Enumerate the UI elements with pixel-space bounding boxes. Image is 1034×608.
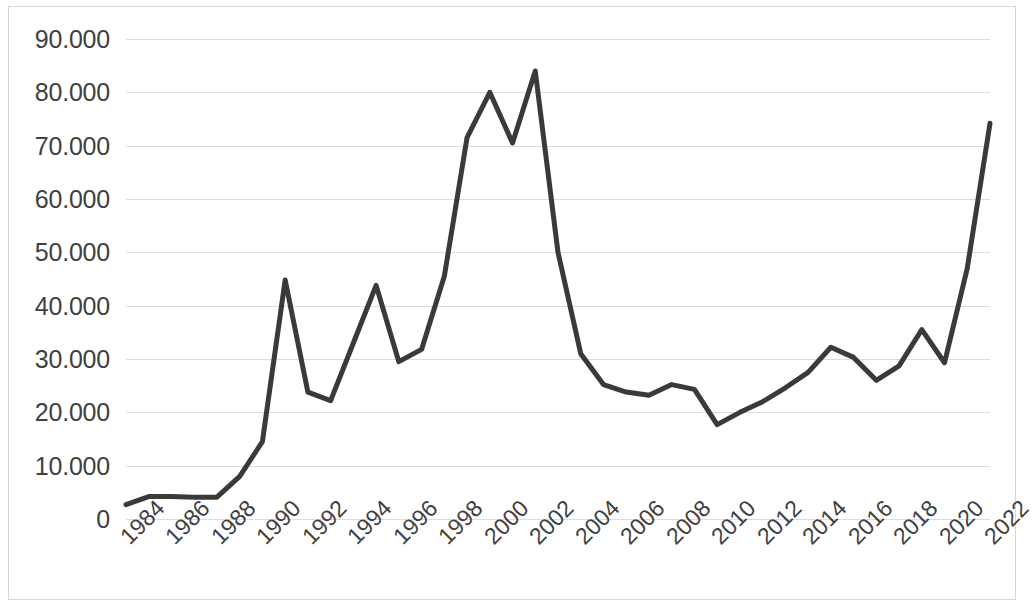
x-axis-tick-label: 2012 <box>752 495 807 550</box>
x-axis-tick-label: 1988 <box>206 495 261 550</box>
x-axis-tick-label: 2004 <box>570 495 625 550</box>
x-axis-tick-label: 2020 <box>934 495 989 550</box>
x-axis-tick-label: 2016 <box>843 495 898 550</box>
x-axis-tick-label: 2002 <box>524 495 579 550</box>
x-axis-tick-label: 2008 <box>661 495 716 550</box>
x-axis-tick-label: 1994 <box>342 495 397 550</box>
x-axis-tick-label: 1984 <box>115 495 170 550</box>
x-axis-tick-label: 1990 <box>251 495 306 550</box>
x-axis-tick-label: 2018 <box>888 495 943 550</box>
x-axis-tick-label: 2006 <box>615 495 670 550</box>
x-axis-tick-label: 2014 <box>797 495 852 550</box>
x-axis-tick-label: 1996 <box>388 495 443 550</box>
x-axis-tick-label: 1992 <box>297 495 352 550</box>
x-axis-tick-label: 2010 <box>706 495 761 550</box>
x-axis-tick-label: 2022 <box>979 495 1034 550</box>
x-axis-tick-label: 1998 <box>433 495 488 550</box>
x-axis-tick-label: 2000 <box>479 495 534 550</box>
x-axis-tick-label: 1986 <box>160 495 215 550</box>
